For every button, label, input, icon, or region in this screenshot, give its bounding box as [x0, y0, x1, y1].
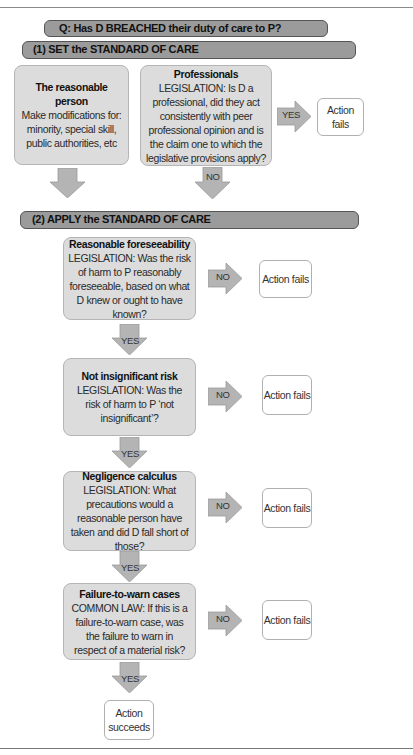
step-title: Not insignificant risk [68, 369, 191, 383]
reasonable-person-box: The reasonable person Make modifications… [14, 65, 129, 165]
step-box-not-insignificant-risk: Not insignificant risk LEGISLATION: Was … [63, 358, 196, 436]
action-fails-text: Action fails [264, 388, 311, 402]
professionals-text: LEGISLATION: Is D a professional, did th… [145, 81, 267, 165]
yes-label: YES [121, 335, 139, 346]
action-fails-box: Action fails [262, 375, 312, 415]
step-box-reasonable-foreseeability: Reasonable foreseeability LEGISLATION: W… [63, 237, 196, 320]
step-title: Reasonable foreseeability [68, 237, 191, 251]
yes-label: YES [121, 562, 139, 573]
yes-down-arrow-icon: YES [112, 324, 147, 355]
no-label: NO [216, 500, 230, 511]
professionals-box: Professionals LEGISLATION: Is D a profes… [140, 65, 272, 166]
top-rule [0, 7, 413, 8]
no-right-arrow-icon: NO [208, 263, 242, 294]
yes-down-arrow-icon: YES [112, 662, 147, 693]
yes-label: YES [121, 448, 139, 459]
yes-down-arrow-icon: YES [112, 551, 147, 582]
no-right-arrow-icon: NO [208, 381, 242, 412]
action-fails-text: Action fails [264, 501, 311, 515]
reasonable-person-title: The reasonable person [19, 80, 124, 108]
no-label: NO [206, 171, 220, 182]
step-text: LEGISLATION: Was the risk of harm to P r… [68, 251, 191, 321]
bottom-rule [0, 748, 413, 749]
action-succeeds-box: Action succeeds [104, 700, 154, 740]
action-fails-box: Action fails [317, 98, 364, 136]
action-succeeds-text: Action succeeds [108, 706, 150, 734]
yes-label: YES [121, 673, 139, 684]
down-arrow-icon [50, 168, 85, 198]
action-fails-box: Action fails [259, 260, 312, 298]
yes-right-arrow-icon: YES [277, 101, 311, 132]
no-right-arrow-icon: NO [208, 492, 242, 523]
professionals-title: Professionals [145, 67, 267, 81]
step-title: Negligence calculus [68, 469, 191, 483]
section1-bar: (1) SET the STANDARD OF CARE [22, 41, 356, 59]
step-text: LEGISLATION: What precautions would a re… [68, 483, 191, 553]
step-box-failure-to-warn: Failure-to-warn cases COMMON LAW: If thi… [63, 583, 196, 660]
action-fails-box: Action fails [262, 600, 312, 640]
no-label: NO [216, 389, 230, 400]
no-right-arrow-icon: NO [208, 605, 242, 636]
step-text: LEGISLATION: Was the risk of harm to P ‘… [68, 383, 191, 425]
action-fails-box: Action fails [262, 488, 312, 528]
step-text: COMMON LAW: If this is a failure-to-warn… [68, 601, 191, 657]
action-fails-text: Action fails [318, 103, 363, 131]
yes-down-arrow-icon: YES [112, 437, 147, 468]
yes-label: YES [282, 109, 300, 120]
question-bar: Q: Has D BREACHED their duty of care to … [44, 20, 328, 37]
step-box-negligence-calculus: Negligence calculus LEGISLATION: What pr… [63, 471, 196, 551]
section2-title: (2) APPLY the STANDARD OF CARE [32, 213, 211, 225]
action-fails-text: Action fails [264, 613, 311, 627]
no-label: NO [216, 613, 230, 624]
no-label: NO [216, 271, 230, 282]
reasonable-person-text: Make modifications for: minority, specia… [19, 108, 124, 150]
question-text: Q: Has D BREACHED their duty of care to … [59, 22, 281, 34]
no-down-arrow-icon: NO [195, 167, 230, 199]
section1-title: (1) SET the STANDARD OF CARE [33, 43, 199, 55]
step-title: Failure-to-warn cases [68, 587, 191, 601]
section2-bar: (2) APPLY the STANDARD OF CARE [20, 211, 359, 229]
action-fails-text: Action fails [262, 272, 309, 286]
